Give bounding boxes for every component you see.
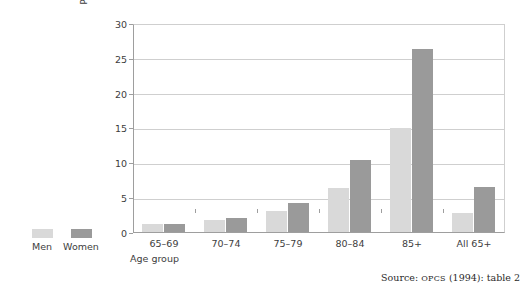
legend-label-women: Women: [61, 241, 101, 252]
x-tick-label-80-84: 80–84: [319, 238, 381, 249]
bar-women-85-plus: [412, 49, 433, 232]
bar-women-75-79: [288, 203, 309, 232]
bar-women-70-74: [226, 218, 247, 232]
y-tick-label-30: 30: [101, 19, 127, 30]
bar-men-all-65-plus: [452, 213, 473, 233]
bar-men-75-79: [266, 211, 287, 232]
bar-women-all-65-plus: [474, 187, 495, 232]
y-tick-mark-0: [129, 233, 133, 234]
legend-item-men: Men: [28, 229, 56, 252]
y-tick-label-0: 0: [101, 228, 127, 239]
x-tick-label-75-79: 75–79: [257, 238, 319, 249]
x-tick-sep-5: [443, 209, 444, 213]
y-tick-label-15: 15: [101, 123, 127, 134]
bar-group-65-69: [134, 25, 196, 232]
bar-group-80-84: [320, 25, 382, 232]
chart-figure: Per cent 30 25 20 15 10 5 0: [0, 0, 526, 293]
x-tick-label-85-plus: 85+: [381, 238, 443, 249]
bar-group-70-74: [196, 25, 258, 232]
x-tick-label-all-65-plus: All 65+: [443, 238, 505, 249]
source-note: Source: OPCS (1994): table 2: [381, 272, 520, 283]
bar-group-all-65-plus: [444, 25, 506, 232]
bar-women-80-84: [350, 160, 371, 232]
y-tick-label-10: 10: [101, 158, 127, 169]
y-tick-label-20: 20: [101, 89, 127, 100]
legend-swatch-women-icon: [71, 229, 92, 238]
source-suffix: (1994): table 2: [446, 272, 520, 283]
y-tick-label-25: 25: [101, 54, 127, 65]
legend-item-women: Women: [61, 229, 101, 252]
bar-men-65-69: [142, 224, 163, 232]
x-tick-sep-3: [319, 209, 320, 213]
y-axis-title: Per cent: [79, 0, 89, 28]
x-tick-label-65-69: 65–69: [133, 238, 195, 249]
bar-men-80-84: [328, 188, 349, 232]
x-tick-sep-1: [195, 209, 196, 213]
source-organisation: OPCS: [421, 274, 446, 283]
bar-group-85-plus: [382, 25, 444, 232]
x-axis-title: Age group: [130, 253, 179, 264]
bar-men-70-74: [204, 220, 225, 232]
bar-group-75-79: [258, 25, 320, 232]
x-tick-sep-2: [257, 209, 258, 213]
source-prefix: Source:: [381, 272, 421, 283]
bar-women-65-69: [164, 224, 185, 232]
legend-swatch-men-icon: [32, 229, 53, 238]
legend-label-men: Men: [28, 241, 56, 252]
y-tick-label-5: 5: [101, 193, 127, 204]
bar-men-85-plus: [390, 128, 411, 233]
plot-area: [133, 24, 505, 233]
x-tick-sep-4: [381, 209, 382, 213]
x-tick-label-70-74: 70–74: [195, 238, 257, 249]
